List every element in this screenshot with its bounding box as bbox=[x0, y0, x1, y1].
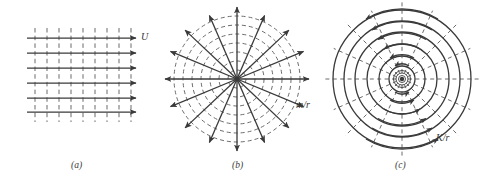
panel-b-line-source bbox=[165, 7, 309, 151]
panel-b-caption: (b) bbox=[232, 160, 243, 170]
panel-c-vortex-point bbox=[400, 77, 404, 81]
panel-a-streamlines bbox=[27, 38, 136, 112]
figure-canvas bbox=[0, 0, 489, 184]
panel-b-source-point bbox=[234, 76, 239, 81]
panel-c-line-vortex bbox=[322, 0, 482, 159]
panel-a-caption: (a) bbox=[71, 160, 82, 170]
panel-a-velocity-label: U bbox=[141, 31, 148, 42]
panel-c-caption: (c) bbox=[395, 160, 406, 170]
potential-flow-figure: U m/r K/r (a) (b) (c) bbox=[0, 0, 489, 184]
panel-a-equipotential-lines bbox=[35, 28, 131, 122]
panel-a-uniform-stream bbox=[27, 28, 136, 122]
panel-c-velocity-label: K/r bbox=[436, 132, 449, 143]
panel-b-velocity-label: m/r bbox=[296, 99, 310, 110]
